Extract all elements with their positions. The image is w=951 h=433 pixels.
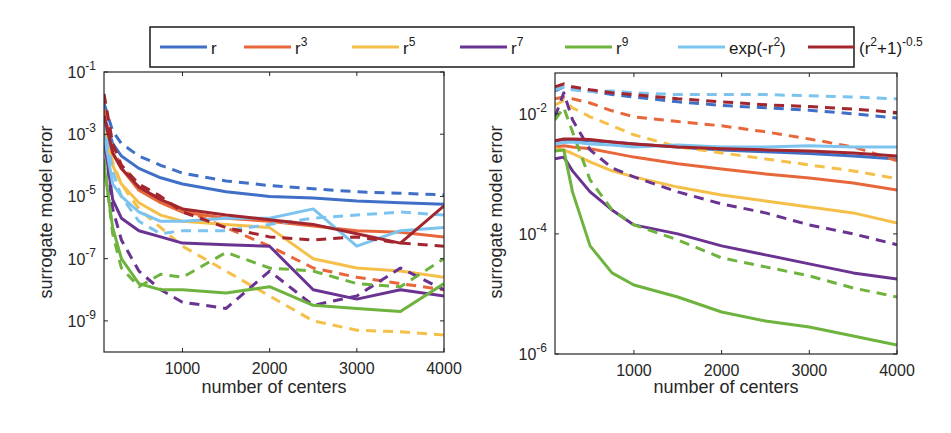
- y-axis-label: surrogate model error: [36, 125, 56, 298]
- x-axis-label: number of centers: [201, 377, 346, 397]
- y-tick-label: 10-5: [68, 183, 97, 205]
- series-line-r5-solid: [555, 149, 897, 223]
- x-tick-label: 4000: [879, 362, 915, 379]
- y-axis-label: surrogate model error: [486, 125, 506, 298]
- x-axis-label: number of centers: [653, 377, 798, 397]
- x-tick-label: 1000: [165, 360, 201, 377]
- y-tick-label: 10-9: [68, 308, 97, 330]
- plot-right: 100020003000400010-210-410-6 number of c…: [486, 73, 915, 397]
- x-tick-label: 1000: [616, 362, 652, 379]
- series-line-r7-solid: [555, 157, 897, 279]
- series-line-r-solid: [104, 116, 444, 205]
- y-tick-label: 10-7: [68, 246, 97, 268]
- series-line-r5-dashed: [104, 122, 444, 335]
- legend-label: (r2+1)-0.5: [859, 35, 923, 58]
- x-tick-label: 4000: [426, 360, 462, 377]
- series-line-r-dashed: [104, 103, 444, 195]
- y-tick-label: 10-4: [519, 221, 548, 243]
- figure: rr3r5r7r9exp(-r2)(r2+1)-0.5 100020003000…: [0, 0, 951, 433]
- y-tick-label: 10-1: [68, 59, 97, 81]
- y-tick-label: 10-3: [68, 121, 97, 143]
- x-tick-label: 3000: [339, 360, 375, 377]
- y-tick-label: 10-2: [519, 101, 548, 123]
- legend-label: r: [211, 39, 217, 58]
- series-line-r9-dashed: [555, 108, 897, 297]
- y-tick-label: 10-6: [519, 341, 548, 363]
- x-tick-label: 2000: [252, 360, 288, 377]
- legend: rr3r5r7r9exp(-r2)(r2+1)-0.5: [150, 27, 923, 67]
- plot-left: 100020003000400010-110-310-510-710-9 num…: [36, 59, 462, 397]
